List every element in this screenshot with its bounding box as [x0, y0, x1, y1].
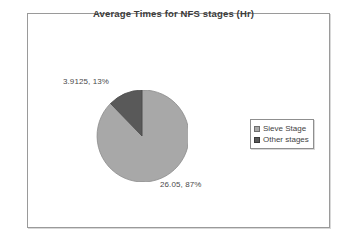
- pie-plot-area: [96, 90, 188, 182]
- chart-legend: Sieve Stage Other stages: [250, 119, 314, 149]
- chart-title: Average Times for NFS stages (Hr): [0, 8, 347, 19]
- legend-item-other-stages: Other stages: [254, 134, 309, 145]
- legend-swatch-icon-other-stages: [254, 137, 260, 143]
- legend-swatch-icon-sieve-stage: [254, 126, 260, 132]
- pie-svg: [96, 90, 188, 182]
- data-label-other-stages: 3.9125, 13%: [63, 77, 109, 86]
- data-label-sieve-stage: 26.05, 87%: [160, 180, 201, 189]
- legend-item-sieve-stage: Sieve Stage: [254, 123, 309, 134]
- legend-label-sieve-stage: Sieve Stage: [263, 123, 306, 134]
- pie-chart-figure: Average Times for NFS stages (Hr) 3.9125…: [0, 0, 347, 244]
- legend-label-other-stages: Other stages: [263, 134, 309, 145]
